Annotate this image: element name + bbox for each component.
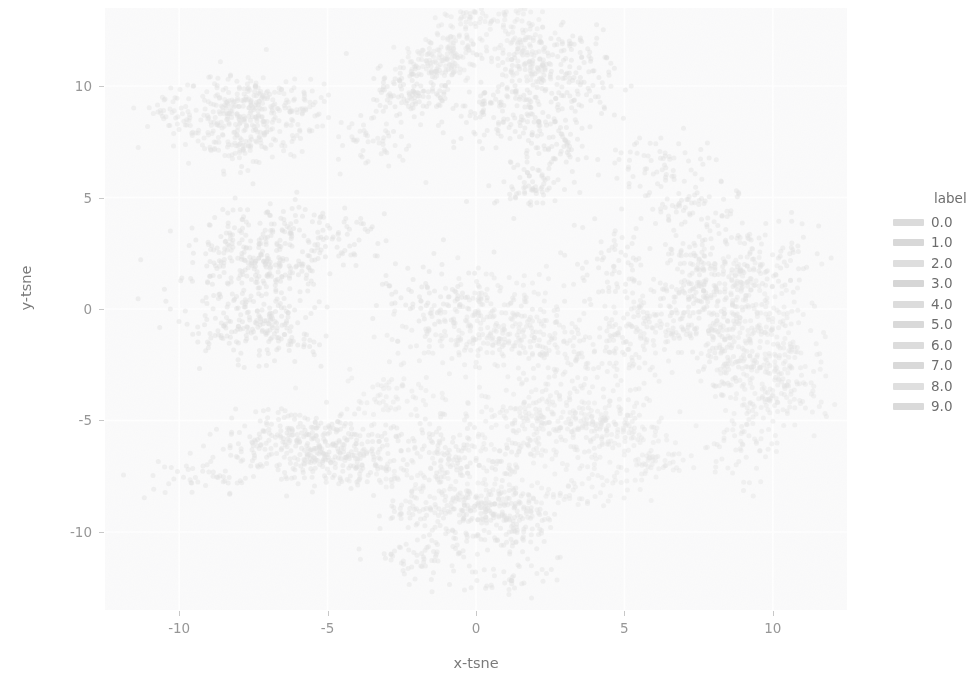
x-tick-label: 5 — [620, 620, 629, 636]
x-axis-title: x-tsne — [105, 655, 847, 671]
y-tick-label: -10 — [52, 524, 92, 540]
x-tick-label: 10 — [764, 620, 781, 636]
legend-item: 5.0 — [893, 315, 976, 336]
legend-swatch — [893, 301, 924, 308]
legend-item: 7.0 — [893, 356, 976, 377]
legend-entries: 0.01.02.03.04.05.06.07.08.09.0 — [893, 212, 976, 417]
legend-label: 4.0 — [931, 298, 952, 312]
legend-label: 1.0 — [931, 236, 952, 250]
legend-swatch — [893, 342, 924, 349]
x-tick-mark — [328, 611, 329, 616]
legend-label: 9.0 — [931, 400, 952, 414]
legend-item: 9.0 — [893, 397, 976, 418]
y-axis-title: y-tsne — [18, 258, 34, 318]
legend-label: 7.0 — [931, 359, 952, 373]
legend-label: 2.0 — [931, 257, 952, 271]
legend-item: 3.0 — [893, 274, 976, 295]
y-tick-label: 0 — [52, 301, 92, 317]
y-tick-label: 10 — [52, 78, 92, 94]
x-tick-label: -10 — [168, 620, 190, 636]
legend-item: 1.0 — [893, 233, 976, 254]
y-tick-mark — [99, 198, 104, 199]
legend-label: 3.0 — [931, 277, 952, 291]
legend-title: label — [934, 190, 976, 206]
x-tick-mark — [179, 611, 180, 616]
legend-label: 0.0 — [931, 216, 952, 230]
plot-panel — [105, 8, 847, 610]
legend-swatch — [893, 321, 924, 328]
legend-swatch — [893, 219, 924, 226]
legend-label: 6.0 — [931, 339, 952, 353]
x-tick-mark — [773, 611, 774, 616]
legend-swatch — [893, 280, 924, 287]
legend-item: 8.0 — [893, 376, 976, 397]
y-tick-mark — [99, 86, 104, 87]
legend-swatch — [893, 403, 924, 410]
y-tick-label: 5 — [52, 190, 92, 206]
legend-swatch — [893, 260, 924, 267]
x-tick-mark — [624, 611, 625, 616]
legend-item: 0.0 — [893, 212, 976, 233]
legend-label: 8.0 — [931, 380, 952, 394]
legend-item: 6.0 — [893, 335, 976, 356]
y-tick-label: -5 — [52, 412, 92, 428]
legend: label 0.01.02.03.04.05.06.07.08.09.0 — [893, 190, 976, 417]
figure-canvas: 1050-5-10-10-50510 x-tsne y-tsne label 0… — [0, 0, 976, 700]
y-tick-mark — [99, 309, 104, 310]
legend-swatch — [893, 239, 924, 246]
x-tick-label: 0 — [472, 620, 481, 636]
legend-swatch — [893, 362, 924, 369]
legend-item: 2.0 — [893, 253, 976, 274]
x-tick-mark — [476, 611, 477, 616]
x-tick-label: -5 — [321, 620, 334, 636]
paper-texture — [105, 8, 847, 610]
legend-label: 5.0 — [931, 318, 952, 332]
legend-swatch — [893, 383, 924, 390]
legend-item: 4.0 — [893, 294, 976, 315]
y-tick-mark — [99, 420, 104, 421]
y-tick-mark — [99, 532, 104, 533]
